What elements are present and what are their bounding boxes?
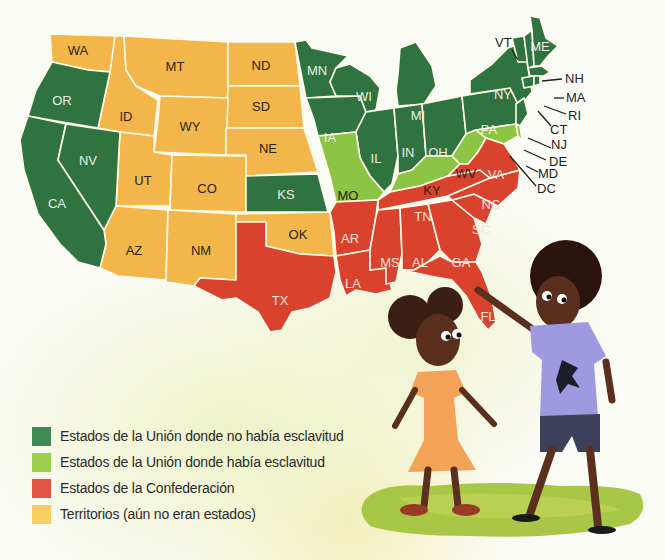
- state-NJ[interactable]: [516, 98, 528, 126]
- label-NC: NC: [482, 197, 501, 212]
- label-OK: OK: [289, 227, 308, 242]
- label-IN: IN: [402, 145, 415, 160]
- label-OR: OR: [52, 93, 72, 108]
- callout-NH: NH: [565, 71, 584, 86]
- label-MT: MT: [166, 59, 185, 74]
- state-RI[interactable]: [534, 76, 540, 86]
- label-NV: NV: [79, 153, 97, 168]
- label-WY: WY: [180, 119, 201, 134]
- legend-label: Territorios (aún no eran estados): [60, 506, 256, 522]
- label-WV: WV: [456, 166, 477, 181]
- label-SD: SD: [252, 99, 270, 114]
- legend-label: Estados de la Unión donde no había escla…: [60, 428, 344, 444]
- label-KY: KY: [423, 183, 441, 198]
- label-MO: MO: [338, 188, 359, 203]
- callout-NJ: NJ: [551, 137, 567, 152]
- callout-CT: CT: [550, 122, 567, 137]
- legend-item-territories: Territorios (aún no eran estados): [32, 501, 344, 527]
- label-GA: GA: [452, 255, 471, 270]
- label-TN: TN: [414, 209, 431, 224]
- swatch-red: [32, 479, 51, 498]
- label-AZ: AZ: [126, 243, 143, 258]
- label-OH: OH: [428, 145, 448, 160]
- label-SC: SC: [472, 222, 490, 237]
- label-TX: TX: [272, 293, 289, 308]
- legend-item-confederacy: Estados de la Confederación: [32, 475, 344, 501]
- label-UT: UT: [134, 173, 151, 188]
- label-MN: MN: [307, 63, 327, 78]
- label-NE: NE: [259, 141, 277, 156]
- label-KS: KS: [277, 187, 295, 202]
- state-CT[interactable]: [522, 76, 534, 88]
- label-MS: MS: [380, 255, 400, 270]
- callout-VT: VT: [495, 35, 512, 50]
- callout-DC: DC: [537, 181, 556, 196]
- state-DE[interactable]: [516, 124, 522, 140]
- label-ME: ME: [530, 39, 550, 54]
- legend-label: Estados de la Unión donde había esclavit…: [60, 454, 325, 470]
- girl-illustration: [388, 287, 494, 516]
- label-NY: NY: [494, 87, 512, 102]
- label-WA: WA: [68, 43, 89, 58]
- label-MI: MI: [411, 108, 425, 123]
- callout-MA: MA: [566, 90, 586, 105]
- swatch-yellow: [32, 505, 51, 524]
- callout-RI: RI: [568, 108, 581, 123]
- legend-item-union-free: Estados de la Unión donde no había escla…: [32, 423, 344, 449]
- state-MA[interactable]: [528, 66, 550, 76]
- label-WI: WI: [356, 89, 372, 104]
- label-IL: IL: [371, 151, 382, 166]
- label-ID: ID: [120, 109, 133, 124]
- label-ND: ND: [252, 58, 271, 73]
- swatch-light-green: [32, 453, 51, 472]
- label-CO: CO: [197, 181, 217, 196]
- label-CA: CA: [48, 196, 66, 211]
- map-legend: Estados de la Unión donde no había escla…: [32, 423, 344, 527]
- swatch-dark-green: [32, 427, 51, 446]
- legend-item-union-slave: Estados de la Unión donde había esclavit…: [32, 449, 344, 475]
- label-LA: LA: [345, 276, 361, 291]
- label-PA: PA: [481, 122, 498, 137]
- legend-label: Estados de la Confederación: [60, 480, 234, 496]
- state-MI[interactable]: [396, 42, 436, 106]
- label-AR: AR: [341, 231, 359, 246]
- label-FL: FL: [480, 309, 495, 324]
- label-IA: IA: [324, 130, 337, 145]
- label-AL: AL: [412, 255, 428, 270]
- label-VA: VA: [488, 167, 505, 182]
- label-NM: NM: [191, 243, 211, 258]
- callout-MD: MD: [538, 166, 558, 181]
